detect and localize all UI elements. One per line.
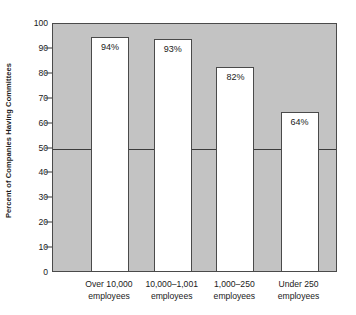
y-axis-tick-label: 30 [18, 193, 48, 202]
x-axis-tick-label: Under 250employees [254, 278, 344, 303]
y-axis-tick-label: 80 [18, 69, 48, 78]
bar: 64% [281, 112, 319, 271]
bar: 93% [154, 39, 192, 271]
y-axis-tick-label: 40 [18, 168, 48, 177]
y-axis-tick-labels: 0102030405060708090100 [18, 0, 48, 315]
bar-value-label: 64% [282, 118, 318, 127]
x-axis-tick-labels: Over 10,000employees10,000–1,001employee… [52, 278, 337, 314]
y-axis-tick-mark [45, 122, 52, 123]
y-axis-tick-mark [45, 197, 52, 198]
bar: 82% [216, 67, 254, 271]
y-axis-tick-label: 10 [18, 243, 48, 252]
bar-chart: Percent of Companies Having Committees 0… [0, 0, 356, 315]
x-axis-tick-label-line2: employees [254, 290, 344, 302]
y-axis-tick-label: 90 [18, 44, 48, 53]
y-axis-tick-mark [45, 47, 52, 48]
bar-value-label: 82% [217, 73, 253, 82]
y-axis-title-text: Percent of Companies Having Committees [5, 62, 14, 217]
y-axis-tick-mark [45, 247, 52, 248]
bar-value-label: 94% [92, 43, 128, 52]
y-axis-tick-label: 0 [18, 268, 48, 277]
y-axis-tick-mark [45, 147, 52, 148]
y-axis-title: Percent of Companies Having Committees [0, 0, 18, 280]
y-axis-tick-label: 100 [18, 19, 48, 28]
y-axis-tick-mark [45, 72, 52, 73]
y-axis-tick-label: 60 [18, 118, 48, 127]
y-axis-tick-mark [45, 172, 52, 173]
x-axis-tick-label-line1: Under 250 [254, 278, 344, 290]
plot-area: 94%93%82%64% [52, 23, 337, 272]
y-axis-tick-mark [45, 222, 52, 223]
bar: 94% [91, 37, 129, 271]
y-axis-tick-mark [45, 97, 52, 98]
y-axis-tick-label: 70 [18, 93, 48, 102]
y-axis-tick-label: 50 [18, 143, 48, 152]
y-axis-tick-label: 20 [18, 218, 48, 227]
bar-value-label: 93% [155, 45, 191, 54]
